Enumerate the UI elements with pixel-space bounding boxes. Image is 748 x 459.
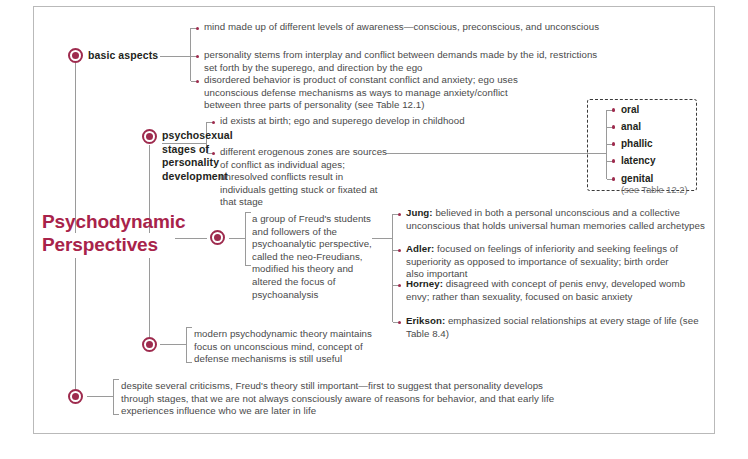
title-line-1: Psychodynamic [42,210,252,233]
theorist-name-horney: Horney: [406,278,443,289]
theorist-horney: Horney: disagreed with concept of penis … [406,278,702,303]
stages-table-note: (see Table 12.2) [621,185,688,195]
theorist-name-adler: Adler: [406,243,434,254]
stage-item-anal: anal [621,121,641,133]
basic-aspects-item-2: personality stems from interplay and con… [204,49,599,74]
neo-freudians-description: a group of Freud's students and follower… [252,213,374,301]
theorist-desc-jung: believed in both a personal unconscious … [406,207,705,231]
stage-item-genital: genital [621,173,653,185]
stage-item-oral: oral [621,104,639,116]
title-line-2: Perspectives [42,233,252,256]
stage-item-phallic: phallic [621,138,653,150]
branch-label-basic-aspects: basic aspects [88,49,178,63]
concept-map-canvas: Psychodynamic Perspectives basic aspects… [0,0,748,459]
stage-item-latency: latency [621,155,655,167]
basic-aspects-item-1: mind made up of different levels of awar… [204,21,634,34]
theorist-desc-adler: focused on feelings of inferiority and s… [406,243,678,279]
page-title: Psychodynamic Perspectives [42,210,252,256]
theorist-name-erikson: Erikson: [406,315,445,326]
theorist-desc-horney: disagreed with concept of penis envy, de… [406,278,685,302]
node-basic-aspects[interactable] [68,48,83,63]
node-psychosexual-stages[interactable] [142,129,157,144]
node-modern-psychodynamic[interactable] [142,337,157,352]
criticisms-description: despite several criticisms, Freud's theo… [121,380,573,418]
theorist-desc-erikson: emphasized social relationships at every… [406,315,699,339]
theorist-name-jung: Jung: [406,207,433,218]
psychosexual-item-1: id exists at birth; ego and superego dev… [220,115,550,128]
theorist-adler: Adler: focused on feelings of inferiorit… [406,243,686,281]
modern-psychodynamic-description: modern psychodynamic theory maintains fo… [194,328,379,366]
theorist-jung: Jung: believed in both a personal uncons… [406,207,718,232]
psychosexual-item-2: different erogenous zones are sources of… [220,146,388,209]
basic-aspects-item-3: disordered behavior is product of consta… [204,74,539,112]
node-criticisms[interactable] [68,389,83,404]
theorist-erikson: Erikson: emphasized social relationships… [406,315,706,340]
